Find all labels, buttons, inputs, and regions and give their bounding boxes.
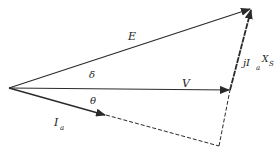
label-theta: θ <box>90 95 96 106</box>
label-jIaXs-sub-a: a <box>256 64 260 72</box>
label-jIaXs: jI a X S <box>241 54 274 72</box>
phasor-E <box>9 9 250 88</box>
label-jIaXs-jI: jI <box>241 57 251 68</box>
label-jIaXs-sub-S: S <box>269 60 274 68</box>
label-jIaXs-X: X <box>261 54 269 64</box>
phasor-jIaXs <box>230 10 251 90</box>
dashed-line-vertical <box>219 90 230 146</box>
label-V: V <box>182 77 191 90</box>
label-Ia: I a <box>53 116 64 132</box>
label-E: E <box>127 30 136 43</box>
label-Ia-main: I <box>53 116 59 129</box>
dashed-line-Ia-extension <box>106 115 219 146</box>
phasor-V <box>9 88 229 90</box>
phasor-diagram: E V δ θ I a jI a X S <box>0 0 279 148</box>
label-Ia-sub: a <box>60 124 64 132</box>
label-delta: δ <box>89 69 95 80</box>
